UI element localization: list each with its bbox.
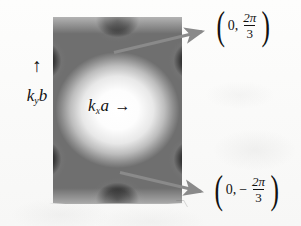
coordinate-label-top: ( 0, 2π 3 ) xyxy=(214,9,273,43)
coord-minus-sign: − xyxy=(239,182,247,198)
y-axis-label-unit: b xyxy=(39,86,48,105)
fraction-numerator: 2π xyxy=(241,11,258,25)
x-axis-label-unit: a xyxy=(101,96,110,115)
coord-y-fraction: 2π 3 xyxy=(250,175,267,204)
coord-comma: , xyxy=(233,182,237,198)
close-paren: ) xyxy=(262,9,270,43)
coordinate-label-bottom: ( 0,− 2π 3 ) xyxy=(212,173,282,207)
coord-y-fraction: 2π 3 xyxy=(241,11,258,40)
open-paren: ( xyxy=(215,173,223,207)
coord-x-value: 0 xyxy=(226,182,233,198)
coord-x-value: 0 xyxy=(228,18,235,34)
fraction-numerator: 2π xyxy=(250,175,267,189)
fraction-denominator: 3 xyxy=(244,25,255,40)
coord-comma: , xyxy=(235,18,239,34)
open-paren: ( xyxy=(217,9,225,43)
y-axis-label: kyb xyxy=(16,86,58,106)
fraction-denominator: 3 xyxy=(253,189,264,204)
close-paren: ) xyxy=(271,173,279,207)
baseline-end-tick xyxy=(176,200,188,207)
x-axis-label: kxa→ xyxy=(88,96,131,116)
x-axis-arrow-icon: → xyxy=(114,97,130,114)
x-axis-label-k: k xyxy=(88,96,96,115)
y-axis-arrow-icon: ↑ xyxy=(16,56,58,75)
y-axis-label-group: ↑ kyb xyxy=(16,56,58,106)
plot-baseline xyxy=(49,203,184,204)
